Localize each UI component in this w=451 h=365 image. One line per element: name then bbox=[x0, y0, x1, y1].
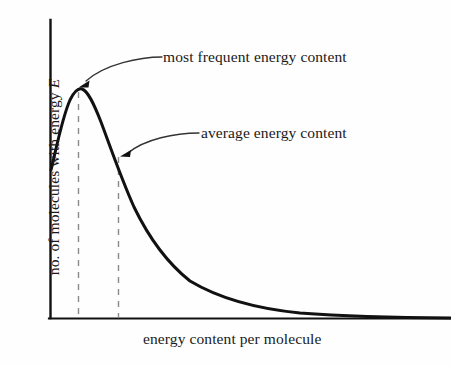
x-axis-label: energy content per molecule bbox=[143, 330, 321, 348]
leader-line-most-frequent bbox=[86, 57, 162, 81]
y-axis-label: no. of molecules with energy E bbox=[45, 47, 63, 307]
y-axis-label-symbol: E bbox=[45, 79, 62, 89]
leader-line-average bbox=[128, 133, 199, 153]
figure-canvas: most frequent energy content average ene… bbox=[0, 0, 451, 365]
arrowhead-most-frequent bbox=[79, 81, 90, 88]
annotation-average-energy: average energy content bbox=[201, 124, 347, 142]
annotation-most-frequent-energy: most frequent energy content bbox=[163, 48, 347, 66]
arrowhead-average bbox=[120, 150, 131, 157]
y-axis-label-text: no. of molecules with energy bbox=[45, 88, 62, 275]
